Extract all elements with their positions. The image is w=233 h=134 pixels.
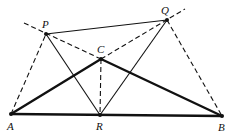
dashed-CR xyxy=(100,59,101,115)
diagram-canvas: P Q C A R B xyxy=(0,0,233,134)
point-C xyxy=(99,57,103,61)
point-B xyxy=(220,114,224,118)
dashed-PC xyxy=(24,23,101,59)
segment-PQ xyxy=(46,20,167,34)
point-P xyxy=(44,32,48,36)
segment-QR xyxy=(100,20,167,115)
dashed-QB xyxy=(167,20,222,116)
label-R: R xyxy=(95,120,103,132)
label-A: A xyxy=(6,120,14,132)
point-A xyxy=(9,112,13,116)
point-R xyxy=(98,113,102,117)
label-C: C xyxy=(97,43,105,55)
label-B: B xyxy=(218,121,225,133)
segment-PR xyxy=(46,34,100,115)
label-P: P xyxy=(41,18,49,30)
segment-AB xyxy=(11,114,222,116)
segment-AC xyxy=(11,59,101,114)
dashed-CQ xyxy=(101,9,185,59)
geometry-diagram: P Q C A R B xyxy=(0,0,233,134)
point-Q xyxy=(165,18,169,22)
label-Q: Q xyxy=(161,4,169,16)
